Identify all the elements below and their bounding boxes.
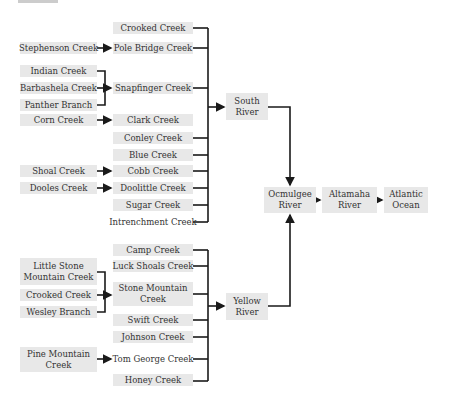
node-panther-branch: Panther Branch — [20, 99, 97, 111]
node-tom-george-creek: Tom George Creek — [113, 353, 193, 365]
node-wesley-branch: Wesley Branch — [20, 306, 97, 318]
node-cobb-creek: Cobb Creek — [113, 165, 193, 177]
node-pine-mountain-creek: Pine Mountain Creek — [20, 347, 97, 372]
node-stone-mountain-creek: Stone Mountain Creek — [113, 282, 193, 306]
node-intrenchment-creek: Intrenchment Creek — [113, 216, 193, 228]
node-crooked-creek-lower: Crooked Creek — [20, 289, 97, 301]
node-dooles-creek: Dooles Creek — [20, 182, 97, 194]
node-indian-creek: Indian Creek — [20, 65, 97, 77]
node-blue-creek: Blue Creek — [113, 149, 193, 161]
node-crooked-creek: Crooked Creek — [113, 22, 193, 34]
node-camp-creek: Camp Creek — [113, 244, 193, 256]
node-clark-creek: Clark Creek — [113, 114, 193, 126]
node-pole-bridge-creek: Pole Bridge Creek — [113, 42, 193, 54]
node-ocmulgee-river: Ocmulgee River — [264, 187, 316, 213]
node-altamaha-river: Altamaha River — [322, 187, 377, 213]
node-shoal-creek: Shoal Creek — [20, 165, 97, 177]
node-swift-creek: Swift Creek — [113, 314, 193, 326]
node-sugar-creek: Sugar Creek — [113, 199, 193, 211]
node-barbashela-creek: Barbashela Creek — [20, 82, 97, 94]
node-snapfinger-creek: Snapfinger Creek — [113, 82, 193, 94]
node-honey-creek: Honey Creek — [113, 374, 193, 386]
node-doolittle-creek: Doolittle Creek — [113, 182, 193, 194]
node-johnson-creek: Johnson Creek — [113, 331, 193, 343]
node-yellow-river: Yellow River — [226, 293, 268, 320]
node-atlantic-ocean: Atlantic Ocean — [384, 187, 428, 213]
node-little-stone-mountain-creek: Little Stone Mountain Creek — [20, 258, 97, 285]
node-stephenson-creek: Stephenson Creek — [20, 42, 97, 54]
node-conley-creek: Conley Creek — [113, 132, 193, 144]
node-luck-shoals-creek: Luck Shoals Creek — [113, 260, 193, 272]
node-corn-creek: Corn Creek — [20, 114, 97, 126]
node-south-river: South River — [226, 93, 268, 120]
